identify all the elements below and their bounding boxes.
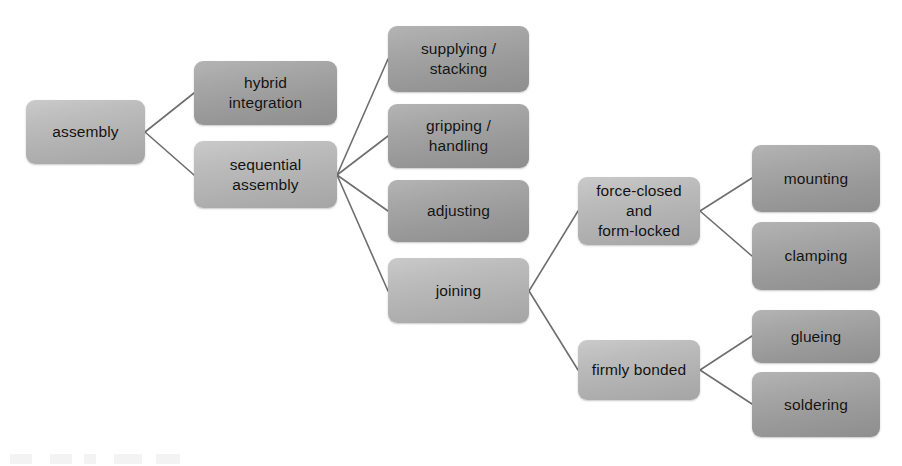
diagram-canvas: assemblyhybrid integrationsequential ass… — [0, 0, 902, 466]
node-label-joining: joining — [436, 281, 482, 301]
node-mounting[interactable]: mounting — [752, 145, 880, 212]
node-adjusting[interactable]: adjusting — [388, 180, 529, 242]
edge-sequential-to-adjusting — [337, 175, 388, 211]
edge-firmly_bonded-to-soldering — [700, 370, 752, 404]
edge-joining-to-force_form — [529, 211, 578, 291]
node-glueing[interactable]: glueing — [752, 310, 880, 363]
node-label-gripping: gripping / handling — [426, 116, 491, 156]
node-label-assembly: assembly — [52, 122, 118, 142]
node-sequential[interactable]: sequential assembly — [194, 141, 337, 208]
node-force_form[interactable]: force-closed and form-locked — [578, 177, 700, 245]
edge-assembly-to-sequential — [145, 132, 194, 175]
edge-sequential-to-supplying — [337, 59, 388, 175]
edge-sequential-to-gripping — [337, 136, 388, 175]
node-label-sequential: sequential assembly — [230, 155, 302, 195]
node-label-hybrid: hybrid integration — [229, 73, 302, 113]
edge-assembly-to-hybrid — [145, 93, 194, 132]
node-label-firmly_bonded: firmly bonded — [592, 360, 686, 380]
node-label-mounting: mounting — [784, 169, 849, 189]
node-hybrid[interactable]: hybrid integration — [194, 61, 337, 125]
edge-joining-to-firmly_bonded — [529, 291, 578, 370]
edge-force_form-to-clamping — [700, 211, 752, 256]
edge-force_form-to-mounting — [700, 178, 752, 211]
edge-sequential-to-joining — [337, 175, 388, 291]
node-gripping[interactable]: gripping / handling — [388, 104, 529, 168]
node-label-glueing: glueing — [791, 327, 842, 347]
node-supplying[interactable]: supplying / stacking — [388, 26, 529, 92]
node-firmly_bonded[interactable]: firmly bonded — [578, 340, 700, 400]
node-label-force_form: force-closed and form-locked — [596, 181, 682, 240]
node-label-supplying: supplying / stacking — [421, 39, 496, 79]
cropped-caption-artifact — [10, 454, 250, 464]
edge-firmly_bonded-to-glueing — [700, 336, 752, 370]
node-label-soldering: soldering — [784, 395, 848, 415]
node-assembly[interactable]: assembly — [26, 100, 145, 164]
node-label-adjusting: adjusting — [427, 201, 490, 221]
node-soldering[interactable]: soldering — [752, 372, 880, 437]
node-label-clamping: clamping — [785, 246, 848, 266]
node-joining[interactable]: joining — [388, 258, 529, 323]
node-clamping[interactable]: clamping — [752, 222, 880, 290]
